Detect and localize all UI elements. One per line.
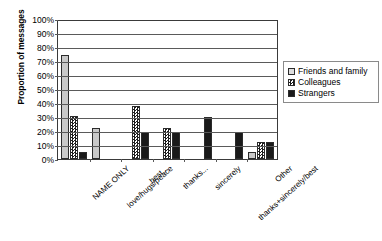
y-tick-label: 0%: [42, 156, 54, 165]
y-tick-mark: [55, 62, 58, 63]
legend-item[interactable]: Friends and family: [288, 66, 375, 76]
y-tick-mark: [55, 146, 58, 147]
y-tick-label: 40%: [37, 100, 54, 109]
x-tick-label: Other: [273, 164, 294, 184]
y-tick-mark: [55, 104, 58, 105]
legend-swatch-icon: [288, 79, 295, 86]
y-tick-mark: [55, 118, 58, 119]
y-tick-mark: [55, 20, 58, 21]
bar[interactable]: [61, 55, 69, 159]
bar[interactable]: [266, 142, 274, 159]
y-tick-mark: [55, 160, 58, 161]
bar[interactable]: [257, 142, 265, 159]
y-tick-label: 90%: [37, 30, 54, 39]
y-tick-mark: [55, 90, 58, 91]
y-axis-tick-labels: 0%10%20%30%40%50%60%70%80%90%100%: [18, 14, 56, 166]
gridline: [58, 118, 277, 119]
y-tick-mark: [55, 34, 58, 35]
x-axis-tick-labels: NAME ONLYlove/hugs/peacebest...thanks...…: [57, 162, 278, 240]
gridline: [58, 62, 277, 63]
gridline: [58, 48, 277, 49]
legend-item[interactable]: Strangers: [288, 88, 375, 98]
y-tick-label: 80%: [37, 44, 54, 53]
y-tick-mark: [55, 76, 58, 77]
gridline: [58, 132, 277, 133]
y-tick-label: 10%: [37, 142, 54, 151]
bar[interactable]: [248, 152, 256, 159]
y-tick-label: 30%: [37, 114, 54, 123]
gridline: [58, 34, 277, 35]
legend-label: Strangers: [298, 88, 335, 98]
x-tick-label: sincerely: [213, 164, 242, 192]
y-tick-label: 20%: [37, 128, 54, 137]
legend-swatch-icon: [288, 90, 295, 97]
bar-chart: Proportion of messages 0%10%20%30%40%50%…: [0, 0, 382, 241]
plot-area: [57, 20, 278, 160]
bar[interactable]: [204, 117, 212, 159]
y-tick-mark: [55, 132, 58, 133]
bar[interactable]: [79, 152, 87, 159]
gridline: [58, 90, 277, 91]
legend-label: Colleagues: [298, 77, 341, 87]
y-tick-label: 50%: [37, 86, 54, 95]
legend-swatch-icon: [288, 68, 295, 75]
y-tick-label: 70%: [37, 58, 54, 67]
gridline: [58, 146, 277, 147]
y-tick-mark: [55, 48, 58, 49]
x-tick-label: NAME ONLY: [91, 164, 132, 202]
gridline: [58, 76, 277, 77]
chart-legend: Friends and familyColleaguesStrangers: [283, 61, 379, 103]
y-tick-label: 60%: [37, 72, 54, 81]
gridline: [58, 104, 277, 105]
y-tick-label: 100%: [32, 16, 54, 25]
legend-label: Friends and family: [298, 66, 367, 76]
x-tick-label: thanks...: [181, 164, 210, 191]
legend-item[interactable]: Colleagues: [288, 77, 375, 87]
bar[interactable]: [70, 116, 78, 159]
